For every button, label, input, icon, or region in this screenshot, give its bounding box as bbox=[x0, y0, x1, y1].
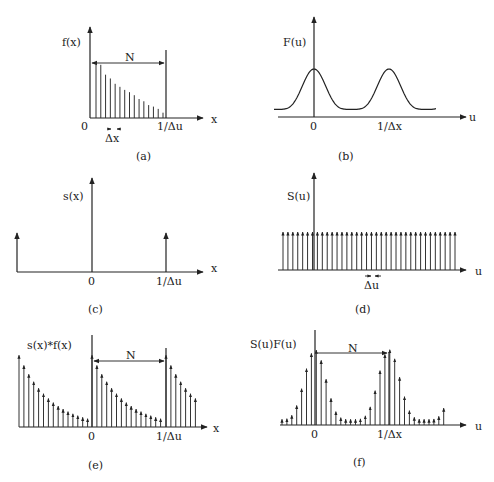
x-label: x bbox=[211, 262, 218, 275]
caption: (a) bbox=[136, 150, 151, 163]
sampled-spectrum bbox=[282, 350, 444, 425]
span-label: N bbox=[348, 342, 358, 355]
tick-period: 1/Δu bbox=[156, 275, 182, 288]
tick-period: 1/Δu bbox=[157, 120, 183, 133]
tick-origin: 0 bbox=[311, 428, 318, 441]
x-label: u bbox=[469, 111, 476, 124]
caption: (d) bbox=[355, 303, 371, 316]
panel-f: S(u)F(u) N 0 1/Δx u (f) bbox=[250, 330, 482, 469]
fourier-sampling-diagram: f(x) N 0 1/Δu x Δx (a) F(u) 0 1/Δx u (b)… bbox=[0, 0, 494, 482]
tick-origin: 0 bbox=[88, 430, 95, 443]
spectrum-curve bbox=[274, 69, 436, 109]
panel-b: F(u) 0 1/Δx u (b) bbox=[274, 17, 476, 163]
tick-origin: 0 bbox=[88, 275, 95, 288]
x-label: u bbox=[475, 420, 482, 433]
caption: (f) bbox=[353, 456, 366, 469]
y-label: s(x) bbox=[63, 190, 83, 203]
x-label: x bbox=[213, 422, 220, 435]
caption: (e) bbox=[88, 459, 103, 472]
x-label: u bbox=[475, 265, 482, 278]
y-label: S(u) bbox=[287, 190, 310, 203]
caption: (b) bbox=[338, 150, 354, 163]
panel-d: S(u) Δu u (d) bbox=[278, 173, 482, 316]
x-label: x bbox=[211, 113, 218, 126]
y-label: S(u)F(u) bbox=[250, 338, 297, 351]
panel-e: s(x)*f(x) N 0 1/Δu x (e) bbox=[19, 335, 220, 472]
tick-period: 1/Δx bbox=[377, 428, 403, 441]
y-label: s(x)*f(x) bbox=[27, 339, 72, 352]
span-label: N bbox=[126, 349, 136, 362]
tick-period: 1/Δx bbox=[377, 120, 403, 133]
y-label: f(x) bbox=[62, 36, 81, 49]
spacing-label: Δx bbox=[105, 132, 120, 145]
periodic-samples bbox=[19, 355, 195, 427]
tick-origin: 0 bbox=[310, 120, 317, 133]
caption: (c) bbox=[88, 303, 103, 316]
sample-bars bbox=[96, 63, 163, 118]
tick-period: 1/Δu bbox=[156, 430, 182, 443]
panel-a: f(x) N 0 1/Δu x Δx (a) bbox=[62, 27, 218, 163]
impulse-train bbox=[283, 232, 455, 270]
tick-origin: 0 bbox=[81, 120, 88, 133]
y-label: F(u) bbox=[283, 36, 306, 49]
panel-c: s(x) 0 1/Δu x (c) bbox=[17, 178, 218, 316]
span-label: N bbox=[125, 51, 135, 64]
spacing-label: Δu bbox=[364, 279, 379, 292]
